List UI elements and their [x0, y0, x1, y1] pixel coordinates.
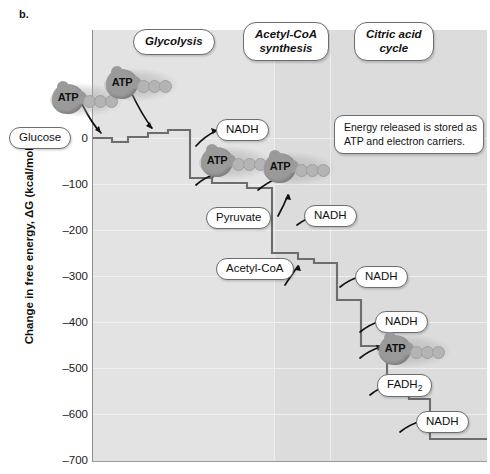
y-tick-600: –600 [36, 408, 88, 420]
y-tick-400: –400 [36, 316, 88, 328]
axis-bottom-line [93, 461, 487, 462]
phase-divider-2 [330, 30, 331, 462]
label-nadh-4: NADH [375, 311, 428, 333]
atp-label: ATP [50, 91, 86, 103]
atp-token-invest-2: ATP [104, 68, 178, 102]
phase-label-glycolysis: Glycolysis [133, 29, 215, 55]
phase-label-citric-acid-cycle: Citric acid cycle [354, 22, 434, 61]
atp-label: ATP [199, 154, 235, 166]
note-box: Energy released is stored as ATP and ele… [334, 115, 484, 154]
panel-label: b. [19, 8, 29, 20]
atp-token-produce-2: ATP [262, 152, 336, 186]
label-fadh2: FADH2 [377, 374, 432, 397]
gridline-200 [93, 230, 487, 231]
phosphate-3 [432, 346, 445, 359]
note-line2: ATP and electron carriers. [344, 135, 465, 147]
gridline-400 [93, 322, 487, 323]
phase-divider-1 [274, 30, 275, 462]
label-acetyl-coa: Acetyl-CoA [216, 258, 294, 280]
label-nadh-3: NADH [355, 266, 408, 288]
y-tick-100: –100 [36, 178, 88, 190]
y-tick-200: –200 [36, 224, 88, 236]
label-glucose: Glucose [9, 127, 71, 149]
y-axis-ticks: 0 –100 –200 –300 –400 –500 –600 –700 [30, 0, 88, 474]
label-nadh-2: NADH [304, 205, 357, 227]
note-line1: Energy released is stored as [344, 121, 477, 133]
y-axis-title: Change in free energy, ΔG (kcal/mol) [23, 119, 35, 369]
atp-token-produce-3: ATP [377, 334, 451, 368]
band-acetyl-coa [274, 30, 330, 462]
phase-citric-line1: Citric acid [366, 28, 422, 40]
label-pyruvate: Pyruvate [206, 207, 271, 229]
phase-acetyl-line1: Acetyl-CoA [255, 28, 317, 40]
y-tick-300: –300 [36, 270, 88, 282]
phase-label-acetyl-coa-synthesis: Acetyl-CoA synthesis [243, 22, 329, 61]
gridline-500 [93, 368, 487, 369]
band-citric-acid [330, 30, 487, 462]
atp-label: ATP [104, 76, 140, 88]
y-tick-500: –500 [36, 362, 88, 374]
atp-label: ATP [377, 342, 413, 354]
y-tick-700: –700 [36, 454, 88, 466]
label-nadh-5: NADH [416, 411, 469, 433]
fadh2-subscript: 2 [418, 383, 423, 393]
phosphate-3 [317, 164, 330, 177]
atp-label: ATP [262, 160, 298, 172]
phosphate-3 [159, 80, 172, 93]
label-nadh-1: NADH [216, 119, 269, 141]
phase-citric-line2: cycle [379, 42, 408, 54]
fadh2-text: FADH [387, 378, 418, 390]
phase-acetyl-line2: synthesis [259, 42, 312, 54]
